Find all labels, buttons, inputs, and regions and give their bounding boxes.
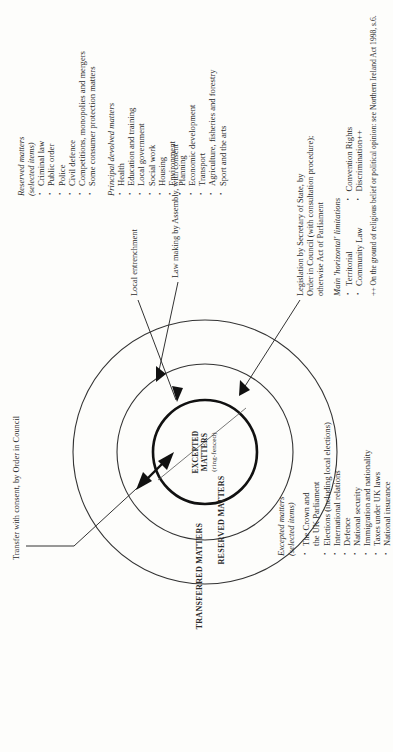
list-item: Agriculture, fisheries and forestry [207, 70, 217, 196]
leader-legislation [240, 300, 300, 394]
leader-law-making [157, 282, 178, 380]
inner-circle-label-line3: (ring-fenced) [210, 431, 219, 474]
legislation-annotation: Legislation by Secretary of State, by Or… [296, 136, 326, 296]
list-item: Territorial [344, 228, 354, 296]
inner-circle-label-line2: MATTERS [201, 431, 210, 474]
footnote: ++ On the ground of religious belief or … [370, 15, 379, 296]
arrowhead-legislation [239, 380, 250, 396]
list-item: Community Law [354, 228, 364, 296]
middle-circle-label: RESERVED MATTERS [217, 475, 226, 564]
outer-circle-label: TRANSFERRED MATTERS [195, 523, 204, 630]
list-item: Convention Rights [344, 127, 354, 202]
horizontal-limitations: Main 'horizontal' limitations Territoria… [332, 127, 364, 296]
list-item: International relations [332, 422, 342, 556]
list-item: Health [116, 70, 126, 196]
local-entrenchment-label: Local entrenchment [130, 229, 140, 296]
list-item: Civil defence [67, 51, 77, 196]
excepted-matters-list: Excepted matters (selected items) The Cr… [276, 422, 393, 556]
list-item: Transport [197, 70, 207, 196]
list-item: Defence [342, 422, 352, 556]
list-item: Public order [46, 51, 56, 196]
devolved-heading: Principal devolved matters [106, 70, 116, 196]
limitations-column-right: Convention Rights Discrimination++ [344, 127, 364, 202]
list-item: National insurance [382, 422, 392, 556]
list-item: Planning [177, 70, 187, 196]
list-item: Social work [147, 70, 157, 196]
list-item: the UK Parliament [311, 422, 321, 556]
limitations-heading: Main 'horizontal' limitations [332, 127, 342, 296]
double-headed-arrow [136, 452, 174, 490]
list-item: Police [57, 51, 67, 196]
excepted-heading: Excepted matters [276, 422, 286, 556]
list-item: Some consumer protection matters [87, 51, 97, 196]
list-item: Sport and the arts [218, 70, 228, 196]
list-item: Immigration and nationality [362, 422, 372, 556]
list-item: Competitions, monopolies and mergers [77, 51, 87, 196]
reserved-subheading: (selected items) [26, 51, 36, 196]
list-item: Taxes under UK laws [372, 422, 382, 556]
legislation-line-3: otherwise Act of Parliament [316, 136, 326, 296]
inner-circle-label: EXCEPTED MATTERS (ring-fenced) [191, 431, 219, 474]
excepted-subheading: (selected items) [286, 422, 296, 556]
list-item: The Crown and [301, 422, 311, 556]
legislation-line-2: Order in Council (with consultation proc… [306, 136, 316, 296]
list-item: Discrimination++ [354, 127, 364, 202]
list-item: Criminal law [36, 51, 46, 196]
list-item: Environment [167, 70, 177, 196]
reserved-matters-list: Reserved matters (selected items) Crimin… [16, 51, 97, 196]
list-item: Local government [136, 70, 146, 196]
inner-circle-label-line1: EXCEPTED [191, 431, 200, 474]
reserved-heading: Reserved matters [16, 51, 26, 196]
list-item: Education and training [126, 70, 136, 196]
list-item: National security [352, 422, 362, 556]
list-item: Economic development [187, 70, 197, 196]
devolved-matters-list: Principal devolved matters Health Educat… [106, 70, 228, 196]
list-item: Elections (including local elections) [322, 422, 332, 556]
legislation-line-1: Legislation by Secretary of State, by [296, 136, 306, 296]
list-item: Housing [157, 70, 167, 196]
limitations-column-left: Territorial Community Law [344, 228, 364, 296]
leader-local-entrenchment [138, 300, 176, 400]
